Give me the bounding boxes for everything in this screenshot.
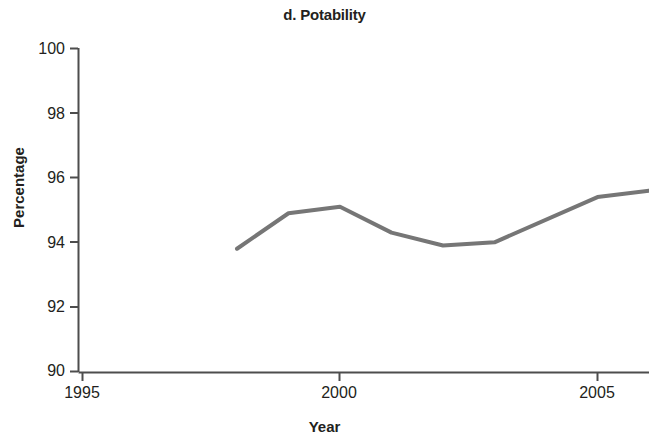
- x-tick-marks: [83, 373, 598, 381]
- data-line-potability: [237, 191, 649, 249]
- chart-figure: d. Potability Percentage Year 100 98 96 …: [0, 0, 649, 444]
- plot-area: [0, 0, 649, 444]
- y-tick-marks: [70, 49, 78, 372]
